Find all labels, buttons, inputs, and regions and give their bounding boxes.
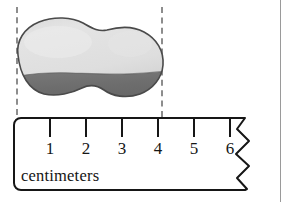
rock-object [12, 8, 170, 108]
ruler-tick-label-6: 6 [220, 140, 240, 157]
ruler-tick-label-3: 3 [112, 140, 132, 157]
ruler-unit-label: centimeters [21, 166, 99, 186]
ruler-tick-label-1: 1 [40, 140, 60, 157]
ruler-tick-label-4: 4 [148, 140, 168, 157]
ruler-tick-label-2: 2 [76, 140, 96, 157]
measurement-figure: 1 2 3 4 5 6 centimeters [0, 0, 281, 202]
ruler-tick-label-5: 5 [184, 140, 204, 157]
